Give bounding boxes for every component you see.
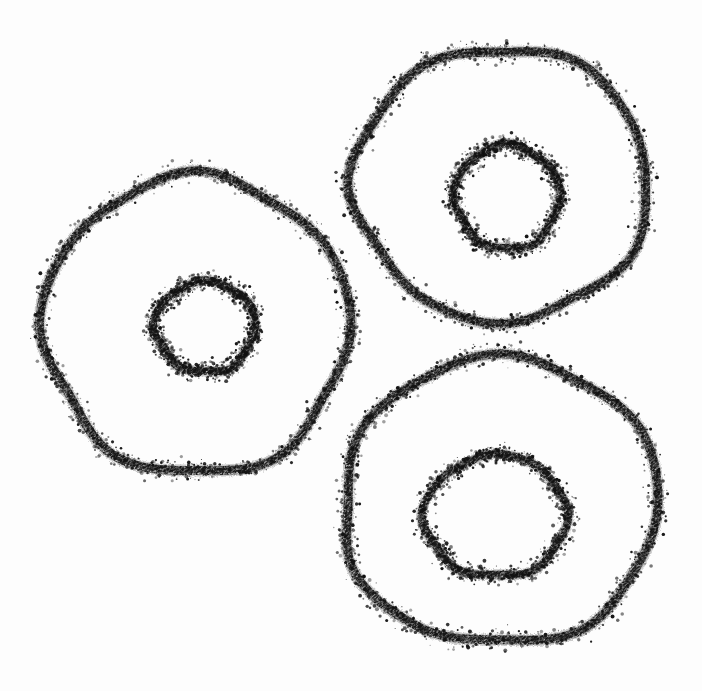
sketch-canvas [0, 0, 702, 691]
sketch-svg [0, 0, 702, 691]
